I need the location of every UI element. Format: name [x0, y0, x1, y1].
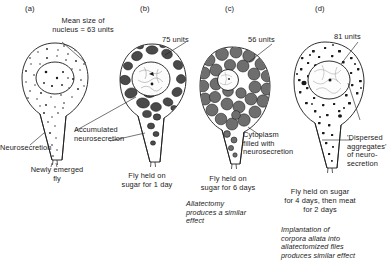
callout-a-neurosecretion: Neurosecretion [0, 144, 52, 153]
callout-b-nucleus-size: 75 units [162, 36, 189, 45]
callout-c-cytoplasm: Cytoplasm filled with neurosecretion [243, 131, 293, 157]
callout-c-nucleus-size: 56 units [248, 36, 275, 45]
callout-b-accumulated: Accumulated neurosecretion [74, 126, 124, 143]
callout-d-dispersed-aggregates: 'Dispersed aggregates' of neuro- secreti… [347, 134, 387, 168]
panel-letter-a: (a) [25, 5, 35, 14]
panel-letter-b: (b) [140, 5, 150, 14]
note-c-allatectomy: Allatectomy produces a similar effect [186, 200, 246, 226]
cell-b [119, 42, 186, 167]
note-d-implantation: Implantation of corpora allata into alla… [281, 226, 355, 260]
caption-a: Newly emerged fly [9, 166, 105, 184]
callout-d-nucleus-size: 81 units [334, 33, 361, 42]
caption-d: Fly held on sugar for 4 days, then meat … [262, 188, 378, 214]
panel-letter-d: (d) [315, 5, 325, 14]
callout-a-nucleus-size: Mean size of nucleus = 63 units [36, 17, 130, 34]
panel-letter-c: (c) [225, 5, 234, 14]
